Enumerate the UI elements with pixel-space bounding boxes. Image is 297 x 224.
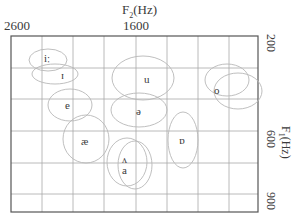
vowel-I-label: ɪ (61, 69, 64, 81)
vowel-openo-label: ɒ (179, 134, 185, 146)
vowel-chart-plot (0, 0, 297, 224)
vowel-e-label: e (65, 99, 70, 111)
y-axis-title: F1(Hz) (275, 126, 292, 159)
vowel-ii-label: iː (44, 52, 50, 64)
vowel-o-label: o (214, 84, 220, 96)
vowel-a-label: a (122, 164, 127, 176)
y-tick-200: 200 (265, 34, 277, 52)
x-tick-1600: 1600 (123, 20, 149, 32)
x-title-unit: (Hz) (133, 2, 157, 17)
ellipse-I (32, 64, 78, 84)
ellipse-wedge (107, 138, 147, 186)
y-title-unit: (Hz) (279, 137, 293, 159)
x-tick-2600: 2600 (4, 20, 30, 32)
vowel-u-label: u (144, 73, 150, 85)
y-tick-900: 900 (265, 192, 277, 210)
vowel-ae-label: æ (81, 135, 88, 147)
ellipse-o-upper (205, 64, 249, 96)
ellipse-o-lower (214, 73, 262, 109)
ellipse-e (48, 89, 92, 121)
vowel-schwa-label: ə (136, 105, 141, 117)
y-title-f: F (279, 126, 293, 133)
